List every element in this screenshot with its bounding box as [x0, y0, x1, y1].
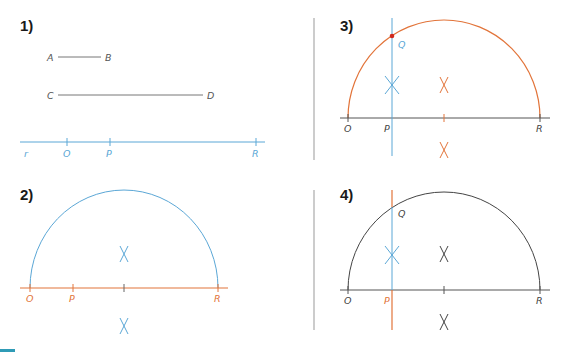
panel-number: 3)	[340, 17, 353, 34]
semicircle-arc	[30, 190, 218, 288]
point-label-q: Q	[398, 39, 406, 50]
point-label-o: O	[344, 295, 352, 306]
point-label-p: P	[69, 293, 75, 304]
point-label-p: P	[106, 148, 112, 159]
intersection-point-q	[390, 34, 395, 39]
point-label-r: R	[214, 293, 221, 304]
construction-diagram: 1) A B C D r O P R 2) O P R	[0, 0, 570, 352]
point-label-b: B	[105, 52, 112, 63]
panel-4: 4) Q O P R	[340, 186, 550, 330]
point-label-o: O	[63, 148, 71, 159]
arc-cross-lower	[440, 314, 448, 330]
point-label-r: R	[252, 148, 259, 159]
point-label-a: A	[46, 52, 54, 63]
point-label-p: P	[384, 123, 390, 134]
panel-number: 2)	[20, 186, 33, 203]
point-label-o: O	[26, 293, 34, 304]
arc-cross-lower	[120, 318, 128, 334]
panel-number: 1)	[20, 17, 33, 34]
arc-cross-upper	[440, 246, 448, 262]
semicircle-arc	[348, 20, 540, 118]
panel-number: 4)	[340, 186, 353, 203]
semicircle-arc	[348, 192, 540, 290]
point-label-d: D	[207, 90, 214, 101]
point-label-q: Q	[398, 208, 406, 219]
arc-cross-upper	[120, 246, 128, 262]
arc-cross-orange-upper	[440, 77, 448, 93]
panel-1: 1) A B C D r O P R	[20, 17, 265, 159]
point-label-r: R	[536, 123, 543, 134]
line-label-r: r	[24, 148, 29, 159]
panel-3: 3) Q O P R	[340, 17, 550, 158]
point-label-o: O	[344, 123, 352, 134]
point-label-c: C	[47, 90, 54, 101]
panel-2: 2) O P R	[20, 186, 228, 334]
arc-cross-orange-lower	[440, 142, 448, 158]
point-label-r: R	[536, 295, 543, 306]
point-label-p: P	[384, 295, 390, 306]
